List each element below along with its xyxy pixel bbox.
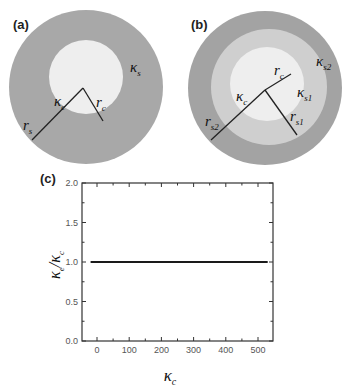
x-axis-label: κc bbox=[164, 366, 177, 387]
panel-b: (b) κs2 κs1 κc rc rs1 rs2 bbox=[188, 11, 342, 165]
x-tick-label: 200 bbox=[154, 345, 169, 355]
x-tick-label: 100 bbox=[122, 345, 137, 355]
y-tick-labels: 0.00.51.01.52.0 bbox=[65, 178, 78, 346]
y-axis-label: κe/κc bbox=[46, 251, 66, 279]
y-tick-label: 2.0 bbox=[65, 178, 78, 188]
panel-b-label: (b) bbox=[191, 17, 208, 32]
figure: (a) κs κc rc rs (b) κs2 κs1 κc rc rs1 rs… bbox=[0, 0, 348, 389]
x-tick-labels: 0100200300400500 bbox=[94, 345, 265, 355]
panel-a-label: (a) bbox=[13, 17, 29, 32]
panel-c: (c) 0.00.51.01.52.0 0100200300400500 κc … bbox=[40, 171, 273, 387]
x-tick-label: 0 bbox=[94, 345, 99, 355]
y-tick-label: 0.0 bbox=[65, 336, 78, 346]
panel-c-label: (c) bbox=[40, 171, 56, 186]
panel-a: (a) κs κc rc rs bbox=[9, 10, 163, 164]
y-tick-label: 1.0 bbox=[65, 257, 78, 267]
y-tick-label: 1.5 bbox=[65, 218, 78, 228]
y-tick-label: 0.5 bbox=[65, 297, 78, 307]
x-tick-label: 400 bbox=[218, 345, 233, 355]
x-tick-label: 500 bbox=[250, 345, 265, 355]
x-tick-label: 300 bbox=[186, 345, 201, 355]
svg-text:κe/κc: κe/κc bbox=[46, 251, 66, 279]
